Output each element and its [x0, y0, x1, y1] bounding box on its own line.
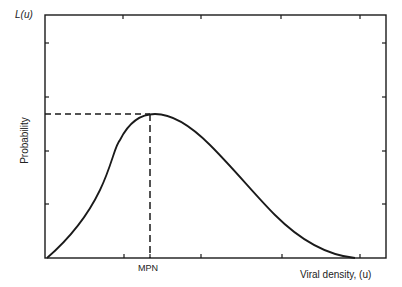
likelihood-curve [47, 114, 355, 258]
mpn-label: MPN [138, 263, 158, 273]
plot-frame [45, 15, 386, 258]
y-axis-symbol: L(u) [15, 9, 33, 20]
x-axis-label: Viral density, (u) [300, 269, 371, 280]
likelihood-chart [0, 0, 402, 287]
x-ticks [123, 15, 360, 258]
y-axis-label: Probability [19, 111, 30, 171]
y-ticks [45, 43, 386, 204]
